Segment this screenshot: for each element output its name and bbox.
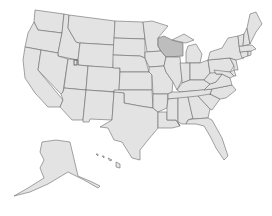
state-alaska[interactable]: Alaska [14, 140, 100, 196]
us-map: WashingtonOregonCaliforniaIdahoNevadaMon… [0, 0, 272, 216]
state-arkansas[interactable]: Arkansas [153, 94, 168, 112]
states-group: WashingtonOregonCaliforniaIdahoNevadaMon… [14, 10, 262, 196]
state-north-dakota[interactable]: North Dakota [114, 21, 145, 39]
state-wyoming[interactable]: Wyoming [78, 43, 114, 68]
state-new-mexico[interactable]: New Mexico [83, 90, 114, 122]
state-kansas[interactable]: Kansas [119, 72, 152, 90]
state-arizona[interactable]: Arizona [60, 88, 86, 120]
state-montana[interactable]: Montana [68, 15, 115, 45]
state-maine[interactable]: Maine [247, 12, 262, 44]
state-hawaii[interactable]: Hawaii [96, 154, 120, 168]
state-rhode-island[interactable]: Rhode Island [248, 51, 251, 56]
state-florida[interactable]: Florida [186, 118, 228, 160]
state-colorado[interactable]: Colorado [86, 66, 120, 92]
state-washington[interactable]: Washington [34, 10, 64, 33]
